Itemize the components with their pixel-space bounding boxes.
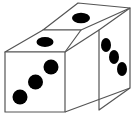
pip xyxy=(13,90,28,105)
dice-illustration-canvas xyxy=(0,0,138,123)
pip xyxy=(28,75,43,90)
pip xyxy=(117,62,127,76)
pip xyxy=(44,60,59,75)
pip xyxy=(37,37,54,47)
pip xyxy=(72,13,90,23)
dice-illustration xyxy=(0,0,138,123)
pip xyxy=(109,50,119,64)
far-die-top-face-pips xyxy=(72,13,90,23)
near-die-top-face-pips xyxy=(37,37,54,47)
pip xyxy=(101,38,111,52)
